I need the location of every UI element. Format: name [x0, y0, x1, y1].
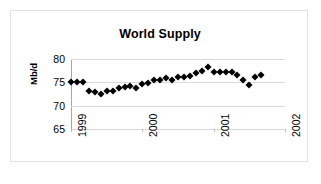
data-point [79, 79, 86, 86]
gridline-75 [71, 82, 285, 83]
x-tick-labels: 1999200020012002 [71, 129, 285, 179]
x-tick-mark-2000 [142, 129, 143, 132]
y-tick-70: 70 [39, 101, 65, 112]
x-tick-2002: 2002 [290, 114, 302, 137]
y-axis-line [71, 59, 72, 129]
x-tick-mark-1999 [71, 129, 72, 132]
gridline-80 [71, 59, 285, 60]
x-tick-2000: 2000 [147, 114, 159, 137]
x-tick-mark-2001 [214, 129, 215, 132]
chart-title: World Supply [11, 27, 309, 41]
y-tick-80: 80 [39, 54, 65, 65]
x-tick-2001: 2001 [219, 114, 231, 137]
y-tick-75: 75 [39, 77, 65, 88]
data-point [133, 84, 140, 91]
x-tick-mark-2002 [285, 129, 286, 132]
plot-area: 65707580 [71, 59, 285, 129]
x-tick-1999: 1999 [76, 114, 88, 137]
gridline-70 [71, 106, 285, 107]
data-point [198, 68, 205, 75]
data-point [97, 91, 104, 98]
data-point [258, 71, 265, 78]
chart-frame: World Supply Mb/d 65707580 1999200020012… [10, 10, 308, 162]
y-axis-label: Mb/d [28, 63, 39, 85]
data-point [234, 71, 241, 78]
y-tick-65: 65 [39, 124, 65, 135]
